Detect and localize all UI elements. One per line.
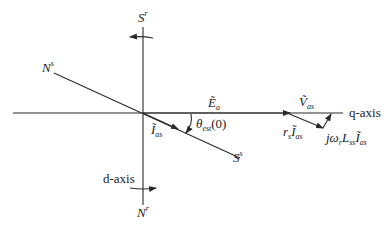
label-d-axis: d-axis (103, 171, 135, 186)
label-q-axis: q-axis (349, 105, 381, 120)
label-stator-S-top: Sr (138, 9, 149, 25)
phasor-diagram: Sr Ns Ss Nr Ẽa Ṽas Ĩas θest(0) rsĨas jωr… (0, 0, 390, 228)
current-phasor-arrow (143, 113, 178, 129)
label-inductive-drop: jωrLssĨas (324, 130, 367, 147)
label-current: Ĩas (150, 122, 162, 139)
rotation-arrow-top-icon (130, 37, 153, 38)
label-rotor-N-bottom: Nr (136, 204, 150, 220)
inductive-drop-arrow (323, 114, 331, 128)
angle-arc (186, 114, 191, 133)
label-stator-S-right: Ss (233, 149, 243, 165)
label-back-emf: Ẽa (207, 95, 220, 112)
label-angle: θest(0) (196, 116, 226, 133)
label-stator-N-left: Ns (41, 59, 54, 75)
label-resistive-drop: rsĨas (283, 124, 303, 141)
label-voltage: Ṽas (299, 94, 314, 111)
